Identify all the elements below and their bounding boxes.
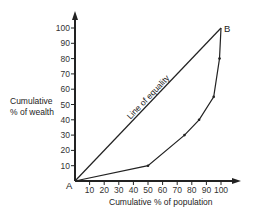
lorenz-point xyxy=(218,57,221,60)
x-tick-label: 100 xyxy=(214,185,228,195)
x-tick-label: 20 xyxy=(99,185,109,195)
y-axis-arrowhead xyxy=(72,11,78,20)
x-tick-label: 40 xyxy=(129,185,139,195)
point-a-label: A xyxy=(66,180,73,191)
y-tick-label: 100 xyxy=(56,23,70,33)
x-axis-arrowhead xyxy=(232,178,241,184)
x-tick-label: 70 xyxy=(172,185,182,195)
y-tick-label: 70 xyxy=(61,69,71,79)
lorenz-point xyxy=(212,96,215,99)
x-axis-title: Cumulative % of population xyxy=(109,197,213,207)
y-tick-label: 30 xyxy=(61,130,71,140)
y-axis-title-line-1: Cumulative xyxy=(10,96,53,106)
y-tick-label: 90 xyxy=(61,38,71,48)
point-b-label: B xyxy=(224,23,230,34)
y-tick-label: 10 xyxy=(61,161,71,171)
line-of-equality xyxy=(75,28,221,181)
series xyxy=(75,28,221,181)
x-tick-label: 80 xyxy=(187,185,197,195)
lorenz-point xyxy=(147,164,150,167)
x-tick-label: 90 xyxy=(202,185,212,195)
lorenz-curve-chart: 1020304050607080901001020304050607080901… xyxy=(0,0,262,221)
x-tick-label: 30 xyxy=(114,185,124,195)
y-tick-label: 50 xyxy=(61,100,71,110)
y-tick-label: 80 xyxy=(61,54,71,64)
y-tick-label: 40 xyxy=(61,115,71,125)
lorenz-point xyxy=(183,134,186,137)
x-tick-label: 60 xyxy=(158,185,168,195)
y-tick-label: 60 xyxy=(61,84,71,94)
y-axis-title-line-2: % of wealth xyxy=(10,107,54,117)
line-of-equality-label: Line of equality xyxy=(125,72,172,121)
x-tick-label: 10 xyxy=(85,185,95,195)
x-tick-label: 50 xyxy=(143,185,153,195)
y-tick-label: 20 xyxy=(61,145,71,155)
lorenz-point xyxy=(198,119,201,122)
labels: Cumulative % of wealth Cumulative % of p… xyxy=(10,23,230,207)
